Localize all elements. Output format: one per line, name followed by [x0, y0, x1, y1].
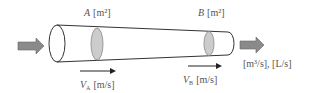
velocity-b-arrow — [188, 63, 222, 69]
outlet-flow-arrow — [240, 37, 264, 53]
outlet-opening — [228, 32, 234, 55]
section-a-label: A[m²] — [83, 7, 111, 18]
pipe-flow-diagram: A[m²] B[m²] VA[m/s] VB[m/s] [m³/s], [L/s… — [0, 0, 317, 93]
inlet-opening — [49, 25, 65, 62]
inlet-flow-arrow — [18, 38, 44, 54]
cross-section-a — [91, 28, 103, 60]
velocity-a-arrow — [80, 68, 116, 74]
flow-rate-units-label: [m³/s], [L/s] — [243, 58, 292, 69]
velocity-a-label: VA[m/s] — [80, 79, 115, 91]
section-b-label: B[m²] — [198, 7, 225, 18]
velocity-b-label: VB[m/s] — [183, 74, 217, 86]
cross-section-b — [204, 32, 214, 56]
